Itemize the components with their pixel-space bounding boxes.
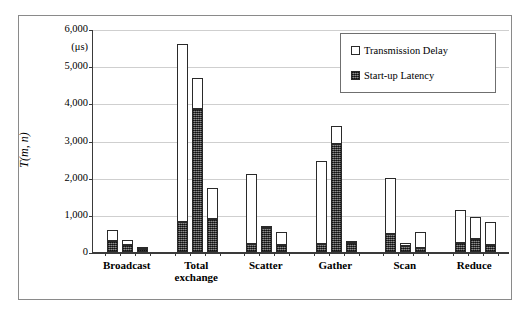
x-tick-mark bbox=[135, 252, 136, 256]
bar-scan-2 bbox=[400, 243, 411, 252]
bar-scan-1 bbox=[385, 178, 396, 252]
bar-segment-transmission-delay bbox=[316, 161, 327, 244]
bar-segment-startup-latency bbox=[316, 244, 327, 252]
x-tick-mark bbox=[205, 252, 206, 256]
y-tick-mark bbox=[89, 216, 93, 217]
x-tick-mark bbox=[453, 252, 454, 256]
y-tick-label: 3,000 bbox=[26, 135, 88, 146]
bar-segment-transmission-delay bbox=[177, 44, 188, 222]
x-tick-mark bbox=[105, 252, 106, 256]
bar-segment-startup-latency bbox=[137, 249, 148, 252]
x-axis-category-total-exchange: Totalexchange bbox=[162, 260, 232, 283]
gridline bbox=[93, 30, 509, 31]
bar-gather-3 bbox=[346, 243, 357, 252]
bar-segment-startup-latency bbox=[276, 245, 287, 252]
y-tick-mark bbox=[89, 179, 93, 180]
bar-scan-3 bbox=[415, 232, 426, 252]
bar-segment-startup-latency bbox=[207, 219, 218, 252]
bar-reduce-1 bbox=[455, 210, 466, 252]
x-tick-mark bbox=[289, 252, 290, 256]
bar-scatter-1 bbox=[246, 174, 257, 252]
x-tick-mark bbox=[244, 252, 245, 256]
x-tick-mark bbox=[274, 252, 275, 256]
bar-segment-startup-latency bbox=[107, 241, 118, 252]
bar-segment-startup-latency bbox=[177, 222, 188, 252]
x-tick-mark bbox=[259, 252, 260, 256]
bar-total-exchange-1 bbox=[177, 44, 188, 252]
x-tick-mark bbox=[413, 252, 414, 256]
y-tick-label: 0 bbox=[26, 246, 88, 257]
chart-figure: 01,0002,0003,0004,0005,0006,000(μs) T(m,… bbox=[0, 0, 530, 317]
bar-scatter-3 bbox=[276, 232, 287, 252]
bar-segment-startup-latency bbox=[400, 246, 411, 252]
bar-broadcast-2 bbox=[122, 240, 133, 252]
x-tick-mark bbox=[383, 252, 384, 256]
x-axis-category-gather: Gather bbox=[301, 260, 371, 272]
x-tick-mark bbox=[498, 252, 499, 256]
x-tick-mark bbox=[220, 252, 221, 256]
bar-segment-transmission-delay bbox=[385, 178, 396, 234]
bar-segment-startup-latency bbox=[385, 234, 396, 252]
bar-segment-startup-latency bbox=[455, 243, 466, 252]
legend-label: Transmission Delay bbox=[364, 45, 448, 56]
bar-reduce-3 bbox=[485, 222, 496, 252]
bar-segment-startup-latency bbox=[415, 248, 426, 252]
y-tick-label: 1,000 bbox=[26, 209, 88, 220]
bar-segment-startup-latency bbox=[261, 228, 272, 252]
x-axis-category-reduce: Reduce bbox=[440, 260, 510, 272]
y-tick-mark bbox=[89, 30, 93, 31]
x-tick-mark bbox=[468, 252, 469, 256]
bar-segment-startup-latency bbox=[470, 239, 481, 252]
y-axis-title: T(m, n) bbox=[17, 132, 32, 167]
bar-total-exchange-3 bbox=[207, 188, 218, 252]
gridline bbox=[93, 179, 509, 180]
legend-swatch-open-square-icon bbox=[351, 46, 360, 55]
x-tick-mark bbox=[428, 252, 429, 256]
x-axis-category-broadcast: Broadcast bbox=[92, 260, 162, 272]
y-tick-mark bbox=[89, 104, 93, 105]
bar-segment-transmission-delay bbox=[331, 126, 342, 144]
bar-gather-1 bbox=[316, 161, 327, 252]
bar-segment-transmission-delay bbox=[485, 222, 496, 246]
y-tick-mark bbox=[89, 67, 93, 68]
bar-segment-startup-latency bbox=[122, 245, 133, 252]
gridline bbox=[93, 142, 509, 143]
bar-segment-transmission-delay bbox=[107, 230, 118, 241]
x-tick-mark bbox=[120, 252, 121, 256]
x-tick-mark bbox=[314, 252, 315, 256]
y-tick-label: 5,000 bbox=[26, 60, 88, 71]
bar-total-exchange-2 bbox=[192, 78, 203, 252]
bar-segment-startup-latency bbox=[346, 243, 357, 252]
y-tick-label: 2,000 bbox=[26, 172, 88, 183]
bar-segment-startup-latency bbox=[485, 245, 496, 252]
gridline bbox=[93, 253, 509, 254]
x-axis-category-scan: Scan bbox=[370, 260, 440, 272]
x-tick-mark bbox=[398, 252, 399, 256]
gridline bbox=[93, 104, 509, 105]
legend-label: Start-up Latency bbox=[364, 70, 434, 81]
bar-broadcast-1 bbox=[107, 230, 118, 252]
bar-segment-transmission-delay bbox=[207, 188, 218, 219]
x-tick-mark bbox=[190, 252, 191, 256]
y-tick-mark bbox=[89, 142, 93, 143]
x-tick-mark bbox=[359, 252, 360, 256]
x-tick-mark bbox=[344, 252, 345, 256]
bar-segment-transmission-delay bbox=[470, 217, 481, 239]
x-tick-mark bbox=[175, 252, 176, 256]
x-axis-category-scatter: Scatter bbox=[231, 260, 301, 272]
legend-swatch-hatched-square-icon bbox=[351, 71, 360, 80]
bar-segment-transmission-delay bbox=[192, 78, 203, 109]
y-tick-mark bbox=[89, 253, 93, 254]
bar-segment-startup-latency bbox=[246, 244, 257, 252]
y-axis-unit-label: (μs) bbox=[26, 41, 88, 52]
bar-segment-transmission-delay bbox=[276, 232, 287, 245]
gridline bbox=[93, 216, 509, 217]
legend-item-startup-latency: Start-up Latency bbox=[351, 70, 434, 81]
chart-legend: Transmission Delay Start-up Latency bbox=[340, 33, 496, 93]
bar-segment-transmission-delay bbox=[415, 232, 426, 248]
y-tick-label: 6,000 bbox=[26, 23, 88, 34]
x-tick-mark bbox=[329, 252, 330, 256]
y-tick-label: 4,000 bbox=[26, 97, 88, 108]
bar-gather-2 bbox=[331, 126, 342, 252]
legend-item-transmission-delay: Transmission Delay bbox=[351, 45, 448, 56]
